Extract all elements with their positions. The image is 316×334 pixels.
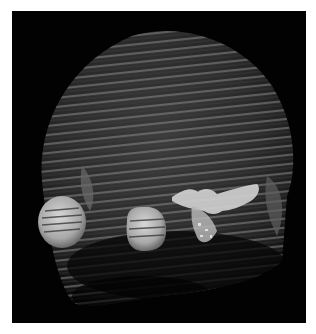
- skull-shell: [12, 11, 306, 323]
- head-volume-render: [12, 11, 306, 323]
- right-eye-globe: [127, 207, 167, 251]
- volume-render-frame: [12, 11, 306, 323]
- left-eye-globe: [38, 196, 86, 248]
